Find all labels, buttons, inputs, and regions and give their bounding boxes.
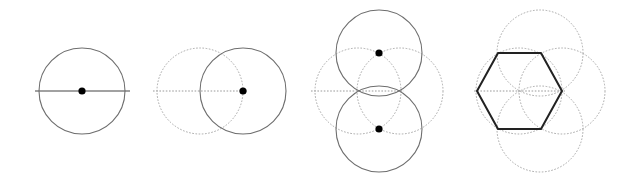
compass-point	[78, 87, 85, 94]
step-1-panel	[35, 48, 130, 134]
compass-point	[375, 125, 382, 132]
compass-point	[375, 49, 382, 56]
compass-point	[239, 87, 246, 94]
step-4-panel	[474, 10, 605, 172]
hexagon-construction-diagram	[0, 0, 637, 195]
step-2-panel	[153, 48, 286, 134]
step-3-panel	[311, 10, 443, 172]
